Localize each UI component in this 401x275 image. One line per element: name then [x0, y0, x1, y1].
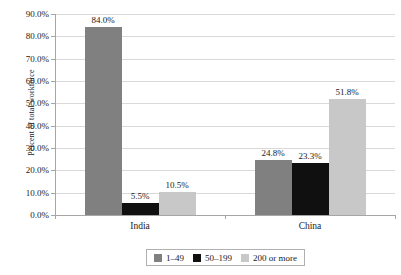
legend-item[interactable]: 1–49 [154, 253, 184, 263]
bar-value-label: 10.5% [165, 180, 188, 190]
y-axis-tick [51, 193, 55, 194]
legend-item[interactable]: 50–199 [193, 253, 232, 263]
y-axis-tick-label: 40.0% [26, 121, 49, 131]
y-axis-tick-label: 80.0% [26, 31, 49, 41]
bar[interactable]: 10.5% [159, 192, 196, 215]
x-axis-category-label: China [299, 220, 322, 232]
y-axis-tick [51, 126, 55, 127]
plot-area: 0.0%10.0%20.0%30.0%40.0%50.0%60.0%70.0%8… [55, 14, 395, 215]
y-axis-tick-label: 10.0% [26, 188, 49, 198]
y-axis-tick [51, 14, 55, 15]
x-axis-tick [395, 215, 396, 219]
x-axis-tick [55, 215, 56, 219]
x-axis-tick [225, 215, 226, 219]
y-axis-tick-label: 20.0% [26, 165, 49, 175]
bar-chart: Percent of total workforce 0.0%10.0%20.0… [0, 0, 401, 275]
bar[interactable]: 51.8% [329, 99, 366, 215]
bar[interactable]: 24.8% [255, 160, 292, 215]
legend-swatch-icon [154, 254, 162, 262]
y-axis-line [55, 14, 56, 216]
y-axis-tick [51, 170, 55, 171]
legend-swatch-icon [193, 254, 201, 262]
bar[interactable]: 84.0% [85, 27, 122, 215]
y-axis-tick [51, 103, 55, 104]
legend-label: 200 or more [253, 253, 297, 263]
x-axis-category-label: India [130, 220, 150, 232]
y-axis-tick [51, 36, 55, 37]
y-axis-tick-label: 50.0% [26, 98, 49, 108]
y-axis-tick [51, 81, 55, 82]
legend-label: 50–199 [205, 253, 232, 263]
y-axis-tick-label: 30.0% [26, 143, 49, 153]
bar-value-label: 23.3% [298, 151, 321, 161]
bar-value-label: 24.8% [261, 148, 284, 158]
y-axis-tick-label: 70.0% [26, 54, 49, 64]
y-axis-tick [51, 59, 55, 60]
bar-value-label: 5.5% [131, 191, 150, 201]
bar-value-label: 84.0% [91, 15, 114, 25]
y-axis-tick-label: 90.0% [26, 9, 49, 19]
y-axis-tick [51, 148, 55, 149]
bar-value-label: 51.8% [335, 87, 358, 97]
chart-legend: 1–49 50–199 200 or more [146, 249, 305, 266]
legend-label: 1–49 [166, 253, 184, 263]
bar[interactable]: 5.5% [122, 203, 159, 215]
y-axis-tick-label: 60.0% [26, 76, 49, 86]
y-axis-tick-label: 0.0% [30, 210, 49, 220]
legend-swatch-icon [241, 254, 249, 262]
legend-item[interactable]: 200 or more [241, 253, 297, 263]
bar[interactable]: 23.3% [292, 163, 329, 215]
